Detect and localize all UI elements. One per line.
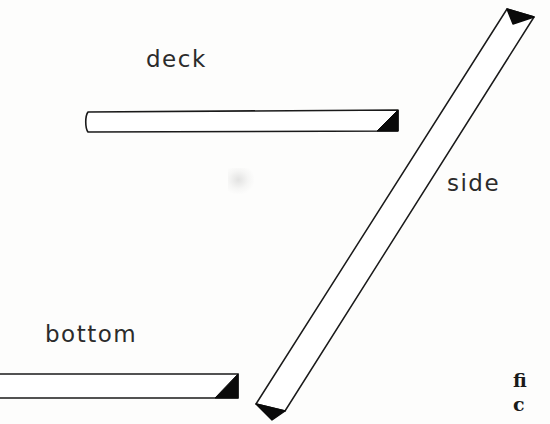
- member-label-bottom: bottom: [45, 321, 137, 347]
- member-bottom: [0, 374, 238, 398]
- figure-canvas: deck side bottom fi c: [0, 0, 550, 424]
- diagram-svg: [0, 0, 550, 424]
- member-label-side: side: [447, 170, 500, 196]
- caption-fragment-line-1: fi: [513, 368, 527, 392]
- caption-fragment-line-2: c: [513, 392, 527, 416]
- bottom-bar-outline: [0, 374, 238, 398]
- deck-bar-outline: [86, 110, 398, 132]
- caption-fragment: fi c: [513, 368, 527, 416]
- member-label-deck: deck: [146, 46, 207, 72]
- side-bar-outline: [256, 9, 534, 411]
- member-side: [256, 9, 534, 420]
- member-deck: [86, 110, 398, 132]
